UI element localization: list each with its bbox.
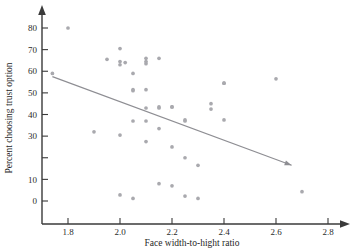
x-axis-title: Face width-to-hight ratio [145, 238, 240, 248]
data-point [196, 197, 200, 201]
x-tick-label: 2.4 [218, 227, 230, 237]
x-axis-ticks: 1.82.02.22.42.62.8 [62, 218, 334, 237]
data-point [170, 105, 174, 109]
data-point [183, 156, 187, 160]
x-tick-label: 2.8 [322, 227, 334, 237]
trend-line-segment [52, 77, 291, 166]
data-point [170, 145, 174, 149]
data-point [131, 119, 135, 123]
data-point [118, 133, 122, 137]
data-point [209, 102, 213, 106]
data-point [118, 47, 122, 51]
y-axis-ticks: 010304050607080 [28, 23, 48, 206]
data-point [131, 197, 135, 201]
y-tick-label: 60 [28, 66, 38, 76]
data-point [222, 81, 226, 85]
data-point [131, 88, 135, 92]
scatter-plot-figure: 010304050607080 1.82.02.22.42.62.8 Face … [0, 0, 358, 252]
x-tick-label: 2.2 [166, 227, 177, 237]
data-point [222, 118, 226, 122]
x-axis-arrow-icon [340, 220, 350, 228]
y-tick-label: 70 [28, 45, 38, 55]
data-point [209, 107, 213, 111]
data-point [157, 106, 161, 110]
data-point [183, 118, 187, 122]
data-point [144, 119, 148, 123]
x-tick-label: 2.6 [270, 227, 282, 237]
data-point [144, 88, 148, 92]
x-tick-label: 1.8 [62, 227, 74, 237]
y-axis-title: Percent choosing trust option [4, 62, 14, 173]
data-point [274, 77, 278, 81]
y-tick-label: 40 [28, 110, 38, 120]
x-tick-label: 2.0 [114, 227, 126, 237]
y-tick-label: 10 [28, 175, 38, 185]
regression-trend-line [52, 77, 291, 166]
data-point [105, 58, 109, 62]
data-point [66, 26, 70, 30]
data-points-group [51, 26, 304, 200]
data-point [183, 194, 187, 198]
y-tick-label: 50 [28, 88, 38, 98]
y-tick-label: 80 [28, 23, 38, 33]
y-tick-label: 0 [33, 196, 38, 206]
data-point [144, 106, 148, 110]
data-point [300, 190, 304, 194]
y-axis-arrow-icon [38, 5, 46, 15]
data-point [157, 182, 161, 186]
data-point [131, 72, 135, 76]
data-point [170, 184, 174, 188]
data-point [123, 61, 127, 65]
data-point [51, 72, 55, 76]
data-point [118, 193, 122, 197]
data-point [157, 127, 161, 131]
data-point [118, 63, 122, 67]
data-point [157, 56, 161, 60]
data-point [144, 56, 148, 60]
data-point [144, 140, 148, 144]
chart-canvas: 010304050607080 1.82.02.22.42.62.8 Face … [0, 0, 358, 252]
data-point [196, 163, 200, 167]
data-point [92, 130, 96, 134]
trend-line-arrow-icon [284, 160, 291, 165]
y-tick-label: 30 [28, 131, 38, 141]
data-point [144, 62, 148, 66]
data-point [118, 60, 122, 64]
